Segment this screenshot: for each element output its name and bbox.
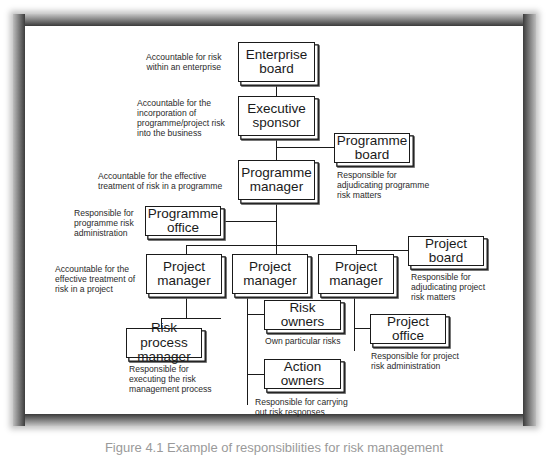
node-label-line: manager: [329, 274, 382, 289]
connector-to-project-board: [356, 250, 408, 251]
connector-pm2-trunk: [247, 294, 248, 405]
note-line: Accountable for the: [55, 264, 135, 274]
note-line: administration: [74, 228, 134, 238]
note-line: out risk responses: [255, 407, 348, 417]
node-label-line: owners: [281, 374, 325, 389]
note-line: Responsible for: [74, 208, 134, 218]
node-label-line: Programme: [241, 166, 312, 181]
node-label-line: board: [425, 251, 467, 266]
note-line: adjudicating project: [411, 282, 485, 292]
node-action-owners: Actionowners: [264, 359, 341, 389]
node-label-line: manager: [129, 350, 199, 365]
note-line: into the business: [137, 128, 225, 138]
node-label-line: Risk: [281, 301, 325, 316]
node-label-line: Project: [243, 260, 296, 275]
node-programme-board: Programmeboard: [334, 133, 410, 163]
note-line: within an enterprise: [146, 62, 221, 72]
node-executive-sponsor: Executivesponsor: [238, 96, 315, 136]
node-project-board: Projectboard: [408, 236, 484, 266]
connector-pm1-branch: [161, 318, 221, 319]
node-label-line: Programme: [337, 134, 408, 149]
note-line: Accountable for risk: [146, 52, 221, 62]
node-label-line: board: [246, 62, 308, 77]
note-line: Responsible for: [129, 364, 212, 374]
connector-enterprise-executive: [276, 82, 277, 96]
node-label-line: Enterprise: [246, 48, 308, 63]
note-project-board: Responsible foradjudicating projectrisk …: [411, 272, 485, 302]
node-label-line: Project: [425, 237, 467, 252]
node-label-line: manager: [157, 274, 210, 289]
note-line: Responsible for carrying: [255, 397, 348, 407]
note-risk-process-manager: Responsible forexecuting the riskmanagem…: [129, 364, 212, 394]
note-line: treatment of risk in a programme: [98, 181, 222, 191]
note-line: management process: [129, 384, 212, 394]
note-line: Accountable for the effective: [98, 171, 222, 181]
note-enterprise-board: Accountable for riskwithin an enterprise: [146, 52, 221, 72]
node-label-line: manager: [241, 180, 312, 195]
note-project-manager-1: Accountable for theeffective treatment o…: [55, 264, 135, 294]
note-line: Responsible for project: [371, 351, 459, 361]
connector-pm1-down: [186, 294, 187, 318]
frame-border-left: [13, 14, 25, 426]
frame-border-right: [523, 14, 536, 426]
node-label-line: board: [337, 148, 408, 163]
note-line: executing the risk: [129, 374, 212, 384]
connector-to-risk-owners: [247, 314, 264, 315]
note-line: effective treatment of: [55, 274, 135, 284]
note-risk-owners: Own particular risks: [265, 336, 340, 346]
note-line: programme/project risk: [137, 118, 225, 128]
note-line: Responsible for: [337, 170, 429, 180]
node-programme-manager: Programmemanager: [238, 160, 315, 200]
node-project-manager-2: Projectmanager: [232, 254, 308, 294]
note-programme-office: Responsible forprogramme riskadministrat…: [74, 208, 134, 238]
note-action-owners: Responsible for carryingout risk respons…: [255, 397, 348, 417]
node-label-line: Action: [281, 360, 325, 375]
note-programme-board: Responsible foradjudicating programmeris…: [337, 170, 429, 200]
note-line: Accountable for the: [137, 98, 225, 108]
connector-project-managers-bus: [186, 245, 356, 246]
connector-to-action-owners: [247, 374, 264, 375]
node-programme-office: Programmeoffice: [145, 206, 221, 236]
note-executive-sponsor: Accountable for theincorporation ofprogr…: [137, 98, 225, 138]
frame-border-top: [13, 14, 536, 26]
node-label-line: office: [148, 221, 219, 236]
node-label-line: Project: [157, 260, 210, 275]
note-line: risk matters: [337, 190, 429, 200]
node-label-line: Risk process: [129, 321, 199, 350]
note-line: incorporation of: [137, 108, 225, 118]
node-label-line: Project: [387, 315, 429, 330]
node-label-line: Project: [329, 260, 382, 275]
note-line: Own particular risks: [265, 336, 340, 346]
note-line: risk administration: [371, 361, 459, 371]
figure-caption: Figure 4.1 Example of responsibilities f…: [0, 440, 548, 455]
node-label-line: sponsor: [247, 116, 306, 131]
node-label-line: owners: [281, 315, 325, 330]
node-project-manager-1: Projectmanager: [146, 254, 222, 294]
note-project-office: Responsible for projectrisk administrati…: [371, 351, 459, 371]
node-enterprise-board: Enterpriseboard: [238, 42, 315, 82]
connector-to-programme-office: [221, 221, 276, 222]
note-line: risk matters: [411, 292, 485, 302]
note-line: Responsible for: [411, 272, 485, 282]
connector-to-project-office: [354, 328, 370, 329]
connector-pm3-trunk: [354, 294, 355, 351]
node-risk-owners: Riskowners: [264, 300, 341, 330]
note-line: programme risk: [74, 218, 134, 228]
node-label-line: office: [387, 329, 429, 344]
connector-to-project-manager-1: [186, 245, 187, 254]
node-project-office: Projectoffice: [370, 314, 446, 344]
note-line: risk in a project: [55, 284, 135, 294]
node-label-line: Executive: [247, 102, 306, 117]
connector-to-programme-board: [276, 147, 334, 148]
note-programme-manager: Accountable for the effectivetreatment o…: [98, 171, 222, 191]
node-label-line: manager: [243, 274, 296, 289]
node-project-manager-3: Projectmanager: [318, 254, 394, 294]
node-risk-process-manager: Risk processmanager: [126, 328, 202, 358]
note-line: adjudicating programme: [337, 180, 429, 190]
node-label-line: Programme: [148, 207, 219, 222]
